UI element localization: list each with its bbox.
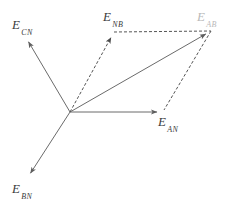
label-ecn-subscript: CN <box>21 28 33 37</box>
vector-eab <box>70 34 206 112</box>
label-ebn: EBN <box>12 180 31 199</box>
label-ean-subscript: AN <box>167 125 178 134</box>
phasor-svg <box>0 0 234 215</box>
vector-ebn <box>31 112 71 173</box>
vector-enb <box>70 38 111 113</box>
label-enb-subscript: NB <box>112 20 123 29</box>
label-enb: ENB <box>103 8 122 27</box>
label-ecn-base: E <box>12 17 20 32</box>
construction-line-ab-to-an <box>164 31 211 110</box>
construction-line-nb-to-ab <box>114 31 211 32</box>
label-eab: EAB <box>197 8 216 27</box>
vector-ecn <box>29 42 71 112</box>
label-ean-base: E <box>158 114 166 129</box>
label-ean: EAN <box>158 113 177 132</box>
phasor-diagram: ECN ENB EAB EAN EBN <box>0 0 234 215</box>
label-eab-subscript: AB <box>206 20 217 29</box>
label-ecn: ECN <box>12 16 32 35</box>
label-enb-base: E <box>103 9 111 24</box>
label-eab-base: E <box>197 9 205 24</box>
label-ebn-subscript: BN <box>21 192 32 201</box>
label-ebn-base: E <box>12 181 20 196</box>
